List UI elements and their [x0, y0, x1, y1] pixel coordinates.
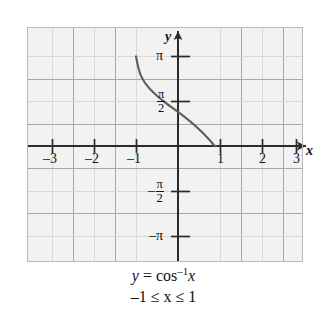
pi-over-2-numerator: π	[157, 88, 165, 101]
y-tick-label-neg-pi: –π	[149, 229, 163, 243]
y-tick-label-pi: π	[156, 49, 163, 63]
y-tick-label-pi-over-2: π 2	[157, 88, 165, 115]
x-tick-label-neg2: –2	[85, 152, 99, 166]
pi-over-2-denominator: 2	[157, 101, 165, 115]
grid-minor-group	[27, 27, 303, 262]
neg-pi-over-2-denominator: 2	[156, 191, 164, 205]
y-axis-label: y	[165, 30, 171, 44]
plot-frame-border	[28, 28, 303, 262]
neg-sign-pi-over-2: –	[148, 184, 156, 198]
caption-y: y	[132, 267, 139, 284]
caption-x: x	[188, 267, 195, 284]
x-tick-label-neg1: –1	[127, 152, 141, 166]
x-tick-label-neg3: –3	[43, 152, 57, 166]
caption-exponent: –1	[177, 265, 188, 277]
x-tick-label-3: 3	[293, 152, 300, 166]
x-tick-label-2: 2	[259, 152, 266, 166]
neg-sign-pi: –	[149, 228, 156, 243]
neg-pi-over-2-numerator: π	[156, 178, 164, 191]
caption-equals: =	[139, 267, 156, 284]
neg-pi-symbol: π	[156, 228, 163, 243]
caption-equation: y = cos–1x	[0, 264, 327, 287]
caption-cos: cos	[156, 267, 177, 284]
caption-domain: –1 ≤ x ≤ 1	[0, 287, 327, 308]
figure-caption: y = cos–1x –1 ≤ x ≤ 1	[0, 264, 327, 308]
y-tick-label-neg-pi-over-2: – π 2	[148, 178, 164, 205]
x-axis-label: x	[306, 144, 313, 158]
arccosine-figure: –3 –2 –1 1 2 3 x y π π 2 – π 2 –π y = co…	[0, 0, 327, 318]
x-tick-label-1: 1	[217, 152, 224, 166]
